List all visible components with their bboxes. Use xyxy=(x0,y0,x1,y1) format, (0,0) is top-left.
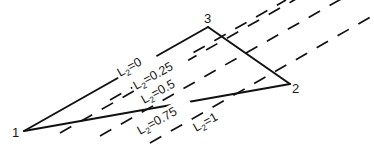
level-line-0.5 xyxy=(60,0,340,133)
vertex-label-2: 2 xyxy=(292,81,299,96)
level-label-1: L2=1 xyxy=(188,103,231,137)
triangle-diagram: 1 2 3 L2=0 L2=0.25 L2=0.5 L2=0.75 L2=1 xyxy=(0,0,374,147)
vertex-label-3: 3 xyxy=(204,11,211,26)
vertex-label-1: 1 xyxy=(12,125,19,140)
